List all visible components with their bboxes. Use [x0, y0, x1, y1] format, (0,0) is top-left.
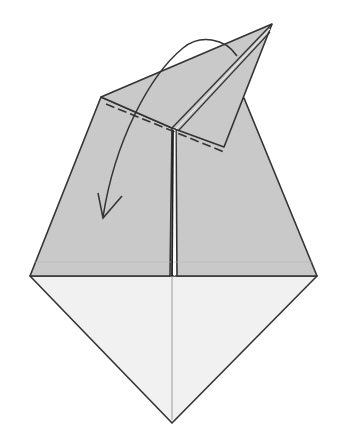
center-slit-gap	[175, 130, 176, 276]
lower-white-triangle	[30, 276, 317, 423]
origami-diagram-svg	[0, 0, 337, 445]
origami-diagram	[0, 0, 337, 445]
left-body-panel	[30, 97, 172, 276]
center-slit	[172, 130, 173, 276]
